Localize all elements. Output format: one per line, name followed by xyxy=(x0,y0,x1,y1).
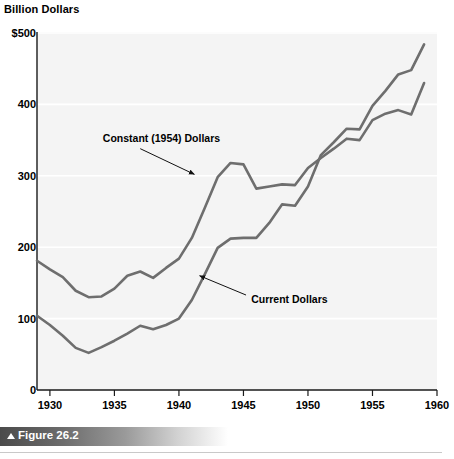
x-tick-label: 1940 xyxy=(156,399,202,411)
y-tick-label: 200 xyxy=(2,241,36,253)
y-tick-label: 300 xyxy=(2,170,36,182)
plot-background xyxy=(37,32,437,390)
x-axis-ticks xyxy=(50,390,437,396)
triangle-up-icon xyxy=(7,433,15,439)
x-tick-label: 1955 xyxy=(349,399,395,411)
x-tick-label: 1960 xyxy=(414,399,454,411)
y-tick-label: $500 xyxy=(2,27,36,39)
y-axis-title: Billion Dollars xyxy=(4,3,79,15)
chart-plot-area: 0100200300400$500 1930193519401945195019… xyxy=(0,22,442,420)
series-label-1: Constant (1954) Dollars xyxy=(103,132,220,144)
x-tick-label: 1935 xyxy=(91,399,137,411)
x-tick-label: 1950 xyxy=(285,399,331,411)
line-chart-svg xyxy=(0,22,442,420)
y-tick-label: 400 xyxy=(2,98,36,110)
figure-caption: Figure 26.2 xyxy=(18,429,79,441)
x-tick-label: 1930 xyxy=(27,399,73,411)
x-tick-label: 1945 xyxy=(220,399,266,411)
caption-divider xyxy=(0,452,442,453)
series-label-2: Current Dollars xyxy=(251,293,327,305)
y-tick-label: 100 xyxy=(2,313,36,325)
y-tick-label: 0 xyxy=(2,384,36,396)
